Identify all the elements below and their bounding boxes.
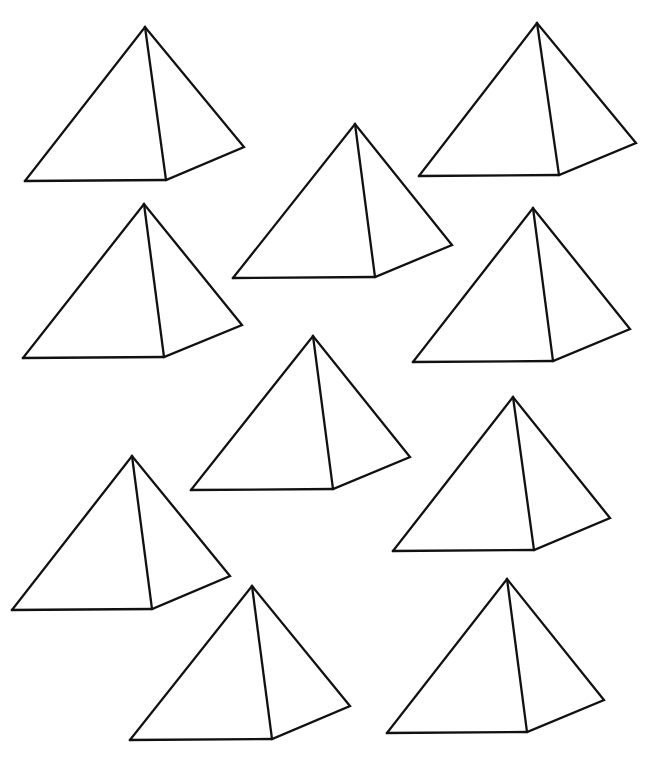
pyramid-drawing-canvas <box>0 0 652 758</box>
pyramid-outline <box>12 456 230 610</box>
pyramid-2 <box>419 23 636 176</box>
pyramid-outline <box>233 124 452 278</box>
pyramid-outline <box>25 27 244 181</box>
pyramid-outline <box>130 586 350 740</box>
pyramid-outline <box>387 579 604 733</box>
pyramid-5 <box>413 208 630 362</box>
pyramid-outline <box>23 204 242 358</box>
pyramid-1 <box>25 27 244 181</box>
pyramid-outline <box>419 23 636 176</box>
pyramid-7 <box>393 397 610 551</box>
pyramid-outline <box>413 208 630 362</box>
pyramid-8 <box>12 456 230 610</box>
pyramid-6 <box>191 336 410 490</box>
pyramid-front-edge <box>252 586 272 739</box>
pyramid-10 <box>387 579 604 733</box>
pyramid-front-edge <box>144 204 164 357</box>
pyramid-9 <box>130 586 350 740</box>
pyramid-4 <box>23 204 242 358</box>
pyramid-front-edge <box>132 456 152 609</box>
pyramid-3 <box>233 124 452 278</box>
pyramid-outline <box>191 336 410 490</box>
pyramid-outline <box>393 397 610 551</box>
